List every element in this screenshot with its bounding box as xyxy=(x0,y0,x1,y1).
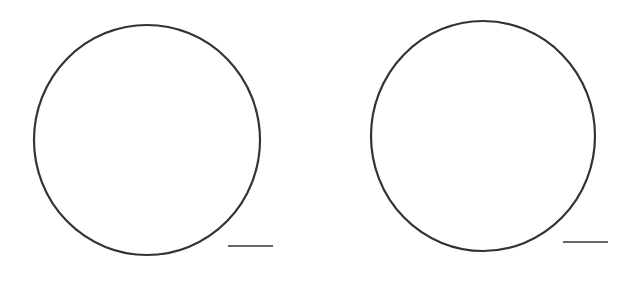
left-figure xyxy=(34,25,273,255)
right-circle xyxy=(371,21,595,251)
diagram-svg xyxy=(0,0,634,285)
left-circle xyxy=(34,25,260,255)
diagram-canvas xyxy=(0,0,634,285)
right-figure xyxy=(371,21,608,251)
